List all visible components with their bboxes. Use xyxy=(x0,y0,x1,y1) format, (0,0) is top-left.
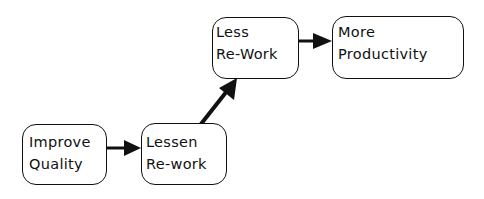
node-label-line: Productivity xyxy=(338,43,463,65)
node-less-rework: Less Re-Work xyxy=(212,17,299,79)
node-label-line: Re-work xyxy=(146,153,226,175)
node-lessen-rework: Lessen Re-work xyxy=(141,123,227,185)
arrow-less-to-more xyxy=(299,33,332,49)
node-label-line: Lessen xyxy=(146,131,226,153)
node-label-line: Re-Work xyxy=(216,43,298,65)
node-label-line: Improve xyxy=(29,131,106,153)
arrow-improve-to-lessen xyxy=(107,140,141,156)
node-improve-quality: Improve Quality xyxy=(22,124,107,185)
node-label-line: More xyxy=(338,21,463,43)
flow-diagram: Improve Quality Lessen Re-work Less Re-W… xyxy=(0,0,484,199)
node-more-productivity: More Productivity xyxy=(332,16,464,79)
node-label-line: Less xyxy=(216,21,298,43)
node-label-line: Quality xyxy=(29,153,106,175)
arrow-lessen-to-less xyxy=(201,78,237,124)
